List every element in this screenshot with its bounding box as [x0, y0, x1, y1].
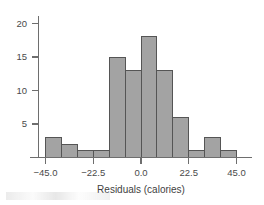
histogram-bar: [93, 151, 109, 158]
y-tick-label: 15: [16, 51, 27, 62]
y-tick-label: 20: [16, 18, 27, 29]
x-axis-title: Residuals (calories): [97, 184, 185, 195]
histogram-bar: [205, 137, 221, 157]
histogram-bar: [221, 151, 237, 158]
histogram-bar: [157, 70, 173, 157]
histogram-bar: [77, 151, 93, 158]
histogram-bar: [173, 117, 189, 157]
x-tick-label: −22.5: [81, 167, 105, 178]
x-tick-label: 0.0: [134, 167, 147, 178]
histogram-plot: 5101520 −45.0−22.50.022.545.0 Residuals …: [0, 0, 264, 205]
y-tick-label: 5: [22, 118, 27, 129]
y-tick-label: 10: [16, 85, 27, 96]
histogram-bar: [109, 57, 125, 158]
x-tick-label: −45.0: [33, 167, 57, 178]
x-tick-label: 45.0: [227, 167, 246, 178]
histogram-bar: [189, 151, 205, 158]
histogram-bar: [125, 70, 141, 157]
histogram-bar: [141, 37, 157, 158]
histogram-bar: [46, 137, 62, 157]
x-tick-label: 22.5: [180, 167, 199, 178]
histogram-bar: [61, 144, 77, 157]
histogram-figure: 5101520 −45.0−22.50.022.545.0 Residuals …: [0, 0, 264, 205]
